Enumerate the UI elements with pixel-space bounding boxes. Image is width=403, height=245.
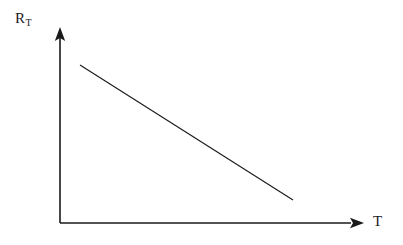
plot-area [0, 0, 403, 245]
x-axis-arrow-right-icon [350, 218, 364, 228]
y-axis-label: RT [15, 11, 31, 26]
x-axis-label: T [373, 214, 382, 229]
y-axis-label-subscript: T [26, 17, 32, 28]
chart-figure: RT T [0, 0, 403, 245]
x-axis-label-main: T [373, 213, 382, 229]
data-series-line [80, 65, 293, 200]
y-axis-label-main: R [15, 10, 25, 26]
